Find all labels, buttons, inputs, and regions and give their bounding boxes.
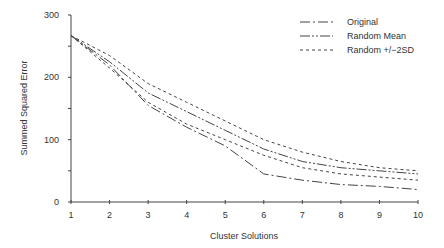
x-axis-label: Cluster Solutions	[210, 231, 279, 241]
line-chart: 0100200300 12345678910 Cluster Solutions…	[0, 0, 444, 248]
x-tick-label: 5	[223, 210, 228, 220]
legend-label-random-sd: Random +/−2SD	[347, 45, 415, 55]
legend-label-original: Original	[347, 17, 378, 27]
y-tick-label: 100	[44, 135, 59, 145]
x-tick-label: 9	[377, 210, 382, 220]
x-tick-label: 7	[300, 210, 305, 220]
y-axis-label: Summed Squared Error	[19, 60, 29, 155]
x-axis-ticks: 12345678910	[68, 200, 423, 220]
x-tick-label: 1	[68, 210, 73, 220]
x-tick-label: 10	[413, 210, 423, 220]
x-tick-label: 3	[146, 210, 151, 220]
data-series	[71, 36, 418, 190]
x-tick-label: 4	[184, 210, 189, 220]
y-tick-label: 200	[44, 72, 59, 82]
legend: Original Random Mean Random +/−2SD	[300, 17, 415, 55]
x-tick-label: 6	[261, 210, 266, 220]
series-line	[71, 36, 418, 174]
y-tick-label: 0	[54, 197, 59, 207]
x-tick-label: 8	[338, 210, 343, 220]
series-line	[71, 36, 418, 171]
y-tick-label: 300	[44, 10, 59, 20]
y-axis-ticks: 0100200300	[44, 10, 71, 207]
legend-label-random-mean: Random Mean	[347, 31, 406, 41]
series-line	[71, 36, 418, 181]
x-tick-label: 2	[107, 210, 112, 220]
axes	[71, 15, 418, 202]
series-line	[71, 36, 418, 190]
